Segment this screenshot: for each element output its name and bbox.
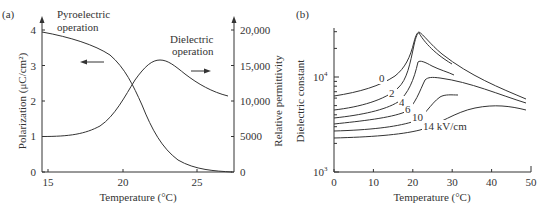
x-tick: 20	[407, 176, 419, 188]
x-axis-b: 0 10 20 30 40 50 Temperature (°C)	[331, 166, 537, 204]
curve-label-10: 10	[412, 111, 424, 123]
panel-b-label: (b)	[296, 8, 309, 21]
curve-label-6: 6	[405, 103, 411, 115]
y-right-tick: 0	[240, 166, 246, 178]
y-tick-1e4: 104	[313, 70, 328, 83]
x-tick: 50	[526, 176, 538, 188]
x-axis-label-b: Temperature (°C)	[393, 191, 471, 204]
x-tick: 0	[331, 176, 337, 188]
dielectric-annotation-line1: Dielectric	[170, 33, 213, 45]
dielectric-annotation-line2: operation	[172, 45, 214, 57]
y-right-axis-label: Relative permittivity	[272, 55, 284, 147]
panel-a: (a) Pyroelectric operation Dielectric op…	[2, 8, 284, 204]
x-tick: 20	[118, 176, 130, 188]
x-axis-label-a: Temperature (°C)	[99, 191, 177, 204]
left-arrow-icon	[80, 60, 104, 65]
y-right-tick: 10,000	[240, 95, 271, 107]
left-y-axis: 0 1 2 3 4 Polarization (μC/cm²)	[16, 16, 45, 178]
x-tick: 25	[192, 176, 204, 188]
x-tick: 15	[43, 176, 55, 188]
curve-6kv	[334, 77, 526, 124]
curve-label-14: 14 kV/cm	[423, 120, 467, 132]
curve-0kv	[334, 32, 526, 99]
y-left-tick: 2	[31, 95, 37, 107]
figure: (a) Pyroelectric operation Dielectric op…	[0, 0, 552, 211]
y-left-tick: 1	[31, 130, 37, 142]
right-arrow-icon	[191, 69, 211, 74]
pyroelectric-annotation-line2: operation	[57, 21, 99, 33]
panel-a-label: (a)	[2, 8, 15, 21]
x-tick: 30	[447, 176, 459, 188]
panel-b: (b) 103 104 Dielectric constant	[294, 8, 537, 204]
y-axis-label-b: Dielectric constant	[294, 60, 306, 143]
y-right-tick: 5000	[240, 130, 263, 142]
right-y-axis: 0 5000 10,000 15,000 20,000 Relative per…	[231, 16, 284, 178]
x-tick: 10	[368, 176, 380, 188]
y-left-tick: 0	[31, 166, 37, 178]
y-right-tick: 15,000	[240, 60, 271, 72]
curve-label-2: 2	[389, 87, 395, 99]
x-tick: 40	[486, 176, 498, 188]
y-left-tick: 4	[31, 24, 37, 36]
y-tick-1e3: 103	[313, 165, 328, 178]
y-axis-b: 103 104 Dielectric constant	[294, 28, 339, 178]
y-left-tick: 3	[31, 60, 37, 72]
y-right-tick: 20,000	[240, 24, 271, 36]
y-left-axis-label: Polarization (μC/cm²)	[16, 53, 29, 150]
curve-label-0: 0	[379, 72, 385, 84]
pyroelectric-annotation-line1: Pyroelectric	[57, 8, 110, 20]
x-axis-a: 15 20 25 Temperature (°C)	[42, 169, 234, 204]
